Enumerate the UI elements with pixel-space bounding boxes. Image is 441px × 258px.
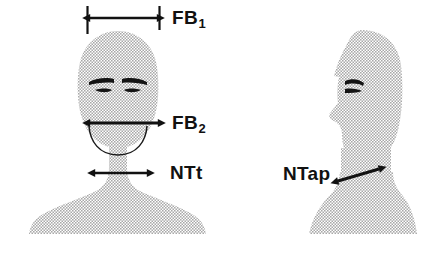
measurement-label-ntap: NTap — [283, 164, 330, 183]
measurement-label-ntt: NTt — [170, 163, 203, 182]
anthropometric-diagram: FB1 FB2 NTt NTap — [0, 0, 441, 258]
profile-figure — [309, 30, 417, 234]
diagram-canvas — [0, 0, 441, 258]
fb2-label-subscript: 2 — [198, 121, 206, 136]
fb1-label-subscript: 1 — [198, 16, 206, 31]
profile-head-silhouette — [329, 30, 402, 156]
fb2-label-text: FB — [172, 112, 198, 133]
measurement-label-fb2: FB2 — [172, 113, 205, 132]
measurement-label-fb1: FB1 — [172, 8, 205, 27]
fb1-label-text: FB — [172, 7, 198, 28]
